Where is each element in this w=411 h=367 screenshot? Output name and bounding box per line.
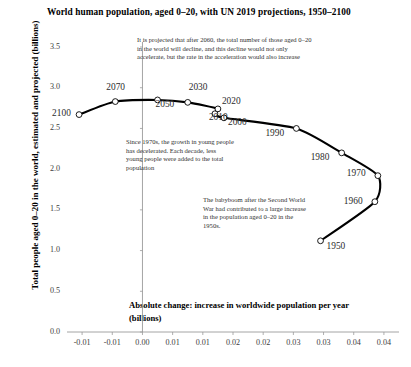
data-point-label-2020: 2020	[222, 96, 241, 106]
data-point-label-1970: 1970	[347, 168, 366, 178]
chart-canvas: World human population, aged 0–20, with …	[0, 0, 411, 367]
data-point-label-1950: 1950	[327, 241, 346, 251]
data-point-marker-1960	[372, 199, 378, 205]
data-point-label-2070: 2070	[106, 82, 125, 92]
data-point-marker-2030	[185, 99, 191, 105]
data-point-marker-2100	[76, 112, 82, 118]
data-point-label-2050: 2050	[156, 99, 175, 109]
annotation-projection-note: It is projected that after 2060, the tot…	[137, 36, 313, 62]
annotation-deceleration-note: Since 1970s, the growth in young people …	[126, 138, 234, 172]
data-point-marker-1950	[318, 238, 324, 244]
data-point-marker-1990	[293, 126, 299, 132]
data-point-label-1980: 1980	[311, 152, 330, 162]
data-point-label-2010: 2010	[209, 112, 228, 122]
annotation-babyboom-note: The babyboom after the Second World War …	[203, 196, 307, 230]
data-point-label-2100: 2100	[52, 108, 71, 118]
data-point-label-2030: 2030	[189, 82, 208, 92]
data-point-marker-1980	[339, 150, 345, 156]
data-point-marker-1970	[375, 173, 381, 179]
data-point-label-2000: 2000	[228, 117, 247, 127]
data-point-label-1990: 1990	[265, 128, 284, 138]
data-point-label-1960: 1960	[344, 196, 363, 206]
data-point-marker-2070	[112, 99, 118, 105]
